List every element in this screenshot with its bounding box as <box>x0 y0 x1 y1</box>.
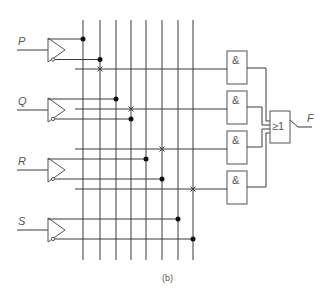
output-f: F <box>290 112 315 127</box>
svg-text:&: & <box>232 134 240 146</box>
figure-caption: (b) <box>162 273 173 283</box>
svg-text:&: & <box>232 94 240 106</box>
and-gate-2: & <box>227 91 247 124</box>
input-label-p: P <box>18 35 26 47</box>
svg-text:&: & <box>232 174 240 186</box>
input-buffer-r: R <box>17 155 165 182</box>
input-label-r: R <box>18 155 26 167</box>
product-term-lines <box>75 69 227 189</box>
or-gate: ≥1 <box>270 111 290 143</box>
svg-text:≥1: ≥1 <box>272 120 284 132</box>
input-buffer-p: P <box>17 35 103 62</box>
and-gate-1: & <box>227 51 247 84</box>
input-buffer-s: S <box>17 215 196 242</box>
input-label-s: S <box>18 215 26 227</box>
and-to-or-wires <box>247 68 270 187</box>
output-label-f: F <box>307 112 315 124</box>
logic-circuit-diagram: P Q R S <box>0 0 328 297</box>
svg-text:&: & <box>232 54 240 66</box>
input-label-q: Q <box>18 95 27 107</box>
and-gate-3: & <box>227 131 247 164</box>
and-gate-4: & <box>227 171 247 204</box>
vertical-bus-lines <box>83 20 193 260</box>
